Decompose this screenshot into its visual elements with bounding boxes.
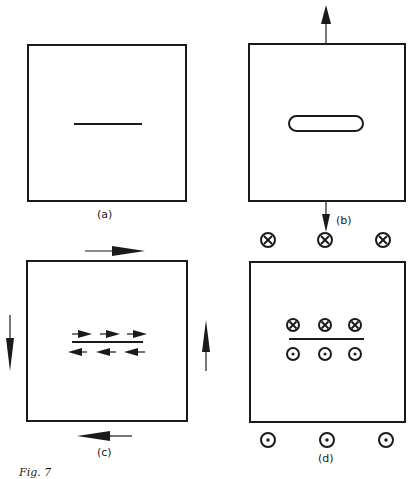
arrow-down-icon [322, 201, 330, 232]
out-of-page-icon [349, 348, 361, 360]
label-a: (a) [97, 208, 112, 221]
figure-7: (a) (b) [0, 0, 415, 479]
panel-a: (a) [28, 45, 186, 221]
arrow-left-icon [96, 348, 116, 356]
open-crack-slot [289, 116, 363, 131]
out-of-page-icon [319, 348, 331, 360]
out-of-page-row-inner [287, 348, 361, 360]
arrow-up-icon [202, 320, 210, 371]
panel-d: (d) [250, 233, 405, 465]
arrow-up-icon [321, 5, 331, 44]
panel-c: (c) [6, 246, 210, 459]
into-page-icon [318, 233, 332, 247]
figure-caption: Fig. 7 [18, 466, 51, 479]
arrow-right-icon [72, 330, 92, 338]
upper-face-arrows [72, 330, 147, 338]
label-b: (b) [336, 214, 352, 227]
panel-b: (b) [249, 5, 405, 232]
arrow-left-icon [68, 348, 87, 356]
out-of-page-icon [287, 348, 299, 360]
arrow-down-icon [6, 315, 14, 371]
into-page-row-inner [287, 319, 361, 331]
into-page-row-top [261, 233, 390, 247]
lower-face-arrows [68, 348, 145, 356]
arrow-right-icon [85, 246, 145, 256]
into-page-icon [319, 319, 331, 331]
out-of-page-icon [320, 433, 334, 447]
arrow-right-icon [127, 330, 147, 338]
label-d: (d) [318, 452, 334, 465]
into-page-icon [376, 233, 390, 247]
into-page-icon [349, 319, 361, 331]
arrow-left-icon [124, 348, 145, 356]
into-page-icon [261, 233, 275, 247]
into-page-icon [287, 319, 299, 331]
out-of-page-row-bottom [261, 433, 393, 447]
plate-d [250, 262, 405, 422]
arrow-right-icon [100, 330, 120, 338]
label-c: (c) [97, 446, 112, 459]
out-of-page-icon [379, 433, 393, 447]
out-of-page-icon [261, 433, 275, 447]
arrow-left-icon [77, 431, 132, 441]
plate-b [249, 44, 405, 201]
